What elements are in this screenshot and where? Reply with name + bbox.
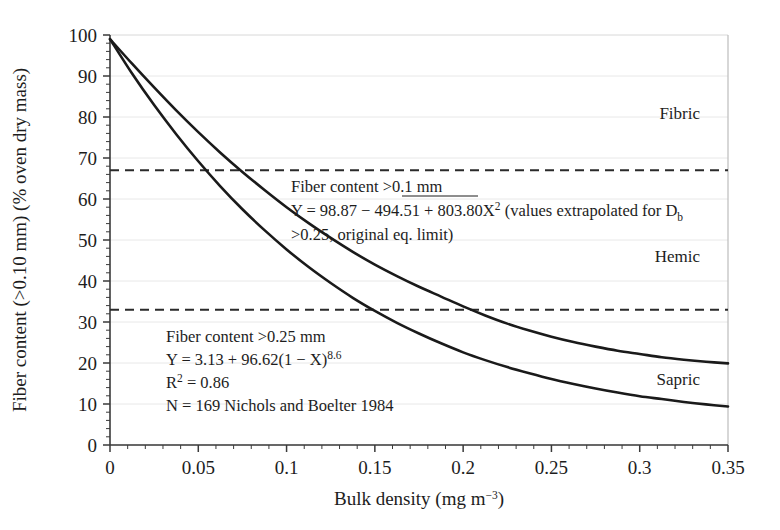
y-tick-label-0: 0 [88,435,98,456]
y-tick-label-30: 30 [78,312,97,333]
y-tick-label-20: 20 [78,353,97,374]
chart-figure: 0102030405060708090100 00.050.10.150.20.… [0,0,780,530]
y-tick-label-100: 100 [69,25,98,46]
x-axis-title-text: Bulk density (mg m [334,488,486,510]
x-tick-label-3: 0.15 [358,457,391,478]
annot-u2-b: (values extrapolated for D [501,201,678,220]
zone-label-sapric: Sapric [657,370,701,389]
annot-u2-sub: b [677,211,683,223]
y-tick-label-10: 10 [78,394,97,415]
annotation-lower-line4: N = 169 Nichols and Boelter 1984 [166,396,393,415]
annot-u2-a: Y = 98.87 − 494.51 + 803.80X [291,201,495,220]
y-tick-label-60: 60 [78,189,97,210]
x-tick-label-5: 0.25 [535,457,568,478]
y-tick-label-70: 70 [78,148,97,169]
x-tick-label-1: 0.05 [182,457,215,478]
y-tick-label-50: 50 [78,230,97,251]
zone-label-fibric: Fibric [659,104,700,123]
y-axis-title: Fiber content (>0.10 mm) (% oven dry mas… [9,68,31,412]
y-tick-label-90: 90 [78,66,97,87]
annotation-upper-line3: >0.25, original eq. limit) [291,225,453,244]
fiber-content-vs-bulk-density-chart: 0102030405060708090100 00.050.10.150.20.… [0,0,780,530]
annotation-lower-line2: Y = 3.13 + 96.62(1 − X)8.6 [166,349,342,369]
annot-l2-sup: 8.6 [327,349,342,361]
x-tick-label-2: 0.1 [275,457,299,478]
x-axis-title: Bulk density (mg m−3) [334,488,504,510]
x-tick-label-4: 0.2 [451,457,475,478]
annotation-lower-line1: Fiber content >0.25 mm [166,327,326,346]
y-tick-label-80: 80 [78,107,97,128]
annot-l2-a: Y = 3.13 + 96.62(1 − X) [166,350,327,369]
x-tick-label-6: 0.3 [628,457,652,478]
zone-label-hemic: Hemic [655,247,701,266]
y-tick-label-40: 40 [78,271,97,292]
annotation-lower-line3: R2 = 0.86 [166,372,229,392]
annot-l3-a: R [166,373,177,392]
annot-l3-b: = 0.86 [183,373,229,392]
x-tick-label-7: 0.35 [711,457,744,478]
annotation-upper-line2: Y = 98.87 − 494.51 + 803.80X2 (values ex… [291,200,683,223]
x-tick-label-0: 0 [105,457,115,478]
annotation-upper-line1: Fiber content >0.1 mm [291,177,443,196]
